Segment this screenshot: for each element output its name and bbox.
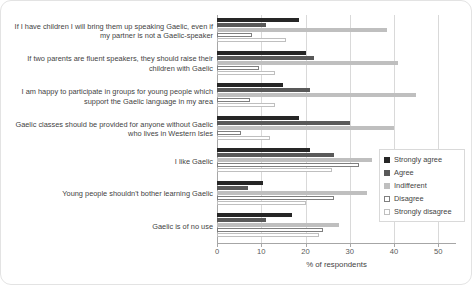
bar-row (217, 136, 456, 140)
bar-row (217, 228, 456, 232)
bar-row (217, 233, 456, 237)
bar (217, 213, 292, 217)
legend-item[interactable]: Agree (384, 166, 460, 179)
bar-row (217, 121, 456, 125)
legend-swatch-icon (384, 209, 390, 215)
legend-swatch-icon (384, 170, 390, 176)
bar (217, 191, 367, 195)
legend-label: Disagree (394, 194, 424, 203)
bar-row (217, 71, 456, 75)
bar-row (217, 103, 456, 107)
legend-swatch-icon (384, 183, 390, 189)
bar-row (217, 131, 456, 135)
bar (217, 181, 263, 185)
bar-row (217, 126, 456, 130)
bar-row (217, 66, 456, 70)
bar-row (217, 33, 456, 37)
bar (217, 148, 310, 152)
bar (217, 168, 332, 172)
bar-row (217, 51, 456, 55)
bar (217, 38, 286, 42)
category-label: I am happy to participate in groups for … (7, 87, 213, 106)
bar (217, 83, 283, 87)
bar (217, 223, 339, 227)
legend-label: Strongly agree (394, 155, 442, 164)
category-label: Young people shouldn't bother learning G… (7, 189, 213, 199)
bar (217, 201, 306, 205)
x-axis-title: % of respondents (217, 260, 456, 269)
category-label: If I have children I will bring them up … (7, 22, 213, 41)
bar (217, 163, 359, 167)
bar (217, 88, 310, 92)
bar (217, 71, 275, 75)
legend-label: Agree (394, 168, 414, 177)
bar-row (217, 28, 456, 32)
legend-swatch-icon (384, 157, 390, 163)
bar (217, 51, 306, 55)
bar-row (217, 83, 456, 87)
bar-group (217, 116, 456, 141)
chart-legend: Strongly agreeAgreeIndifferentDisagreeSt… (379, 149, 465, 222)
x-axis-tick-label: 10 (246, 247, 276, 256)
bar (217, 18, 299, 22)
bar-row (217, 56, 456, 60)
bar (217, 196, 334, 200)
bar (217, 158, 372, 162)
bar (217, 66, 259, 70)
bar (217, 126, 394, 130)
legend-label: Strongly disagree (394, 207, 452, 216)
chart-container: If I have children I will bring them up … (0, 0, 472, 285)
bar (217, 61, 398, 65)
x-axis-line (217, 243, 456, 244)
bar-group (217, 18, 456, 43)
x-axis-tick-label: 40 (379, 247, 409, 256)
legend-item[interactable]: Disagree (384, 192, 460, 205)
category-label: I like Gaelic (7, 157, 213, 167)
bar-row (217, 88, 456, 92)
x-axis-tick-label: 20 (291, 247, 321, 256)
legend-label: Indifferent (394, 181, 427, 190)
bar (217, 98, 250, 102)
bar (217, 233, 319, 237)
bar-row (217, 23, 456, 27)
legend-item[interactable]: Strongly disagree (384, 205, 460, 218)
bar-row (217, 18, 456, 22)
bar (217, 93, 416, 97)
bar (217, 153, 334, 157)
bar-group (217, 83, 456, 108)
bar (217, 186, 248, 190)
category-label: Gaelic is of no use (7, 222, 213, 232)
bar (217, 121, 350, 125)
bar (217, 136, 270, 140)
bar (217, 218, 266, 222)
bar (217, 131, 241, 135)
bar (217, 116, 299, 120)
bar (217, 103, 275, 107)
bar (217, 28, 387, 32)
category-label: Gaelic classes should be provided for an… (7, 120, 213, 139)
legend-item[interactable]: Indifferent (384, 179, 460, 192)
bar (217, 33, 252, 37)
x-axis-tick-label: 50 (423, 247, 453, 256)
bar-row (217, 93, 456, 97)
category-label: If two parents are fluent speakers, they… (7, 54, 213, 73)
legend-swatch-icon (384, 196, 390, 202)
bar-group (217, 51, 456, 76)
bar (217, 56, 314, 60)
bar-row (217, 38, 456, 42)
category-axis-labels: If I have children I will bring them up … (7, 15, 213, 243)
x-axis-tick-label: 0 (202, 247, 232, 256)
bar (217, 23, 266, 27)
bar-row (217, 98, 456, 102)
x-axis-tick-label: 30 (335, 247, 365, 256)
bar-row (217, 223, 456, 227)
bar-row (217, 116, 456, 120)
legend-item[interactable]: Strongly agree (384, 153, 460, 166)
bar-row (217, 61, 456, 65)
bar (217, 228, 323, 232)
